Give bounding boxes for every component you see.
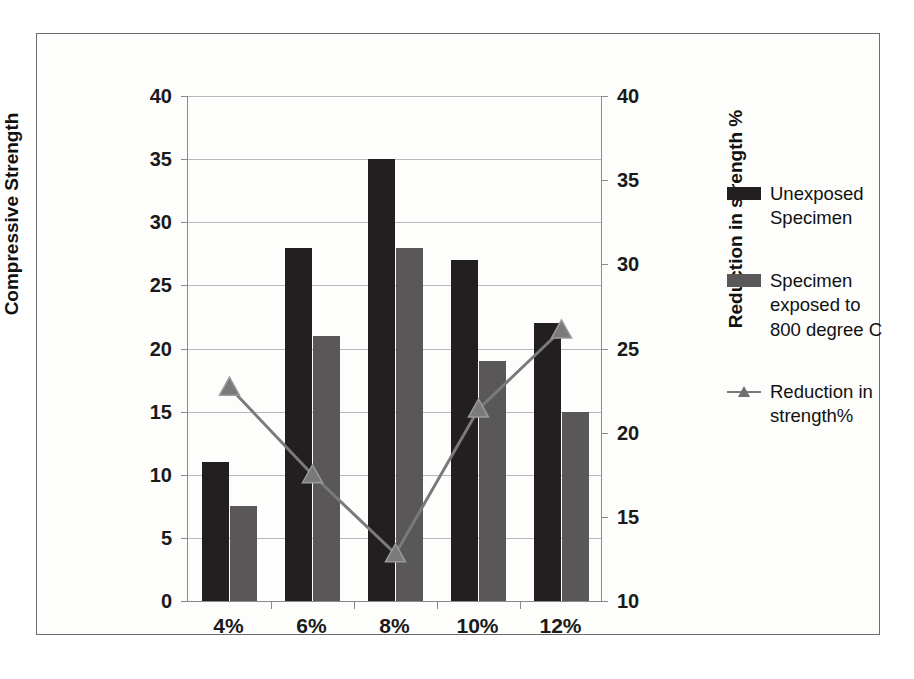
line-marker	[220, 377, 240, 395]
x-axis-tick	[354, 601, 355, 609]
legend-entry[interactable]: UnexposedSpecimen	[727, 182, 912, 231]
left-axis-tick	[181, 222, 188, 223]
left-axis-tick-label: 35	[150, 149, 172, 169]
reduction-line	[230, 330, 562, 554]
right-axis-tick	[601, 601, 608, 602]
figure-frame: Compressive Strength Reduction in streng…	[36, 33, 880, 635]
left-axis-tick	[181, 159, 188, 160]
reduction-markers	[220, 320, 572, 562]
right-axis-tick-label: 15	[617, 507, 639, 527]
legend-marker-line-icon	[727, 385, 761, 398]
left-axis-tick	[181, 349, 188, 350]
left-axis-tick-label: 25	[150, 275, 172, 295]
x-axis-label: 4%	[187, 614, 270, 638]
left-axis-title: Compressive Strength	[1, 113, 23, 316]
plot-area: 0510152025303540 10152025303540	[187, 96, 602, 601]
chart-legend: UnexposedSpecimenSpecimenexposed to800 d…	[727, 182, 912, 467]
left-axis-tick	[181, 96, 188, 97]
x-axis-label: 10%	[436, 614, 519, 638]
legend-swatch-dark-icon	[727, 187, 761, 200]
left-axis-tick-label: 30	[150, 212, 172, 232]
right-axis-tick-label: 10	[617, 591, 639, 611]
x-axis-tick	[520, 601, 521, 609]
legend-swatch-gray-icon	[727, 274, 761, 287]
x-axis-ticks	[188, 601, 601, 609]
left-axis-tick-label: 40	[150, 86, 172, 106]
x-axis-tick	[271, 601, 272, 609]
left-axis-tick-label: 5	[161, 528, 172, 548]
line-series-layer	[188, 96, 603, 601]
line-marker	[552, 320, 572, 338]
x-axis-label: 8%	[353, 614, 436, 638]
x-axis-tick	[437, 601, 438, 609]
x-axis-label: 12%	[519, 614, 602, 638]
left-axis-tick	[181, 538, 188, 539]
legend-label: Reduction instrength%	[770, 380, 873, 429]
right-axis-tick-label: 20	[617, 423, 639, 443]
left-axis-tick-label: 15	[150, 402, 172, 422]
left-axis-tick-label: 0	[161, 591, 172, 611]
left-axis-tick-label: 10	[150, 465, 172, 485]
legend-entry[interactable]: Reduction instrength%	[727, 380, 912, 429]
left-axis-tick	[181, 412, 188, 413]
right-axis-tick-label: 40	[617, 86, 639, 106]
legend-label: UnexposedSpecimen	[770, 182, 864, 231]
left-axis-tick-label: 20	[150, 339, 172, 359]
legend-label: Specimenexposed to800 degree C	[770, 269, 882, 342]
left-axis-tick	[181, 475, 188, 476]
legend-entry[interactable]: Specimenexposed to800 degree C	[727, 269, 912, 342]
left-axis-tick	[181, 285, 188, 286]
x-axis-label: 6%	[270, 614, 353, 638]
x-axis-labels: 4%6%8%10%12%	[187, 614, 602, 638]
right-axis-tick-label: 30	[617, 254, 639, 274]
right-axis-tick-label: 25	[617, 339, 639, 359]
right-axis-tick-label: 35	[617, 170, 639, 190]
left-axis-tick	[181, 601, 188, 602]
